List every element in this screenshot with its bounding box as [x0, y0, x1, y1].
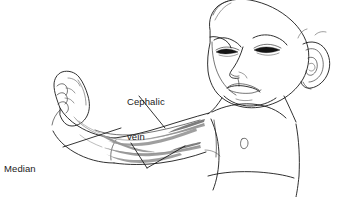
ear-outline	[301, 42, 330, 88]
label-basilic-vein: Basilic vein	[113, 172, 162, 197]
ear-top-hair	[315, 32, 326, 35]
eye-far-lash	[254, 47, 280, 53]
thumb-crease	[68, 78, 80, 86]
hairline	[213, 1, 228, 15]
label-basilic-line1: Basilic vein	[113, 195, 162, 197]
lower-lip	[229, 90, 261, 93]
nose-wing	[239, 72, 247, 78]
eye-far-lower-lid	[257, 53, 279, 55]
figure-root: Cephalic vein Median cubital vein Basili…	[0, 0, 343, 197]
label-median-cubital-vein: Median cubital vein	[4, 140, 53, 197]
label-median-line1: Median	[4, 163, 53, 175]
nostril-near	[231, 74, 239, 76]
head-group	[208, 0, 330, 108]
torso-group	[205, 96, 299, 197]
label-cephalic-vein: Cephalic vein	[127, 73, 165, 165]
axilla-crease	[205, 150, 220, 156]
chin-crease	[236, 99, 252, 101]
neck-front	[208, 98, 222, 114]
label-cephalic-line1: Cephalic	[127, 96, 165, 108]
eye-near-lash	[216, 49, 238, 54]
forearm-vein-stripe-b	[80, 135, 102, 147]
ear-concha	[309, 63, 315, 71]
wrist-crease	[52, 110, 60, 125]
chin-contour	[224, 96, 276, 106]
nipple	[241, 138, 249, 148]
torso-side	[296, 124, 299, 197]
forearm-vein-stripe-a	[79, 121, 100, 133]
philtrum	[238, 79, 239, 86]
hair-wisp	[215, 3, 231, 20]
chest-contour	[211, 119, 219, 190]
eyebrow-far	[253, 35, 287, 45]
torso-lower-edge	[208, 172, 294, 178]
fist-group	[54, 71, 89, 126]
knuckle-1	[57, 84, 68, 95]
fist-outline	[54, 71, 89, 126]
upper-lip	[228, 84, 259, 90]
hand-back-line	[78, 80, 86, 105]
label-cephalic-line2: vein	[127, 131, 165, 143]
eye-near-lower-lid	[219, 54, 238, 56]
chest-fold	[214, 120, 216, 157]
